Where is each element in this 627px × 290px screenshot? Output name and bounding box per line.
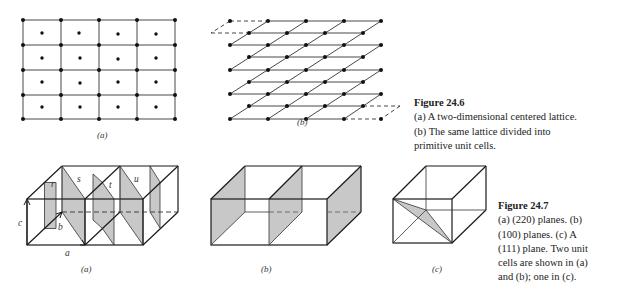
- figure-24-6-caption: Figure 24.6 (a) A two-dimensional center…: [414, 96, 624, 153]
- fig-24-7c-label: (c): [432, 264, 442, 274]
- plane-label-u: u: [134, 174, 139, 184]
- fig-24-7c-shaded-plane: [393, 199, 452, 243]
- axis-label-a: a: [65, 248, 70, 258]
- caption-line: (b) The same lattice divided into: [414, 125, 624, 139]
- axis-label-b: b: [58, 222, 63, 232]
- figure-24-6-title: Figure 24.6: [414, 96, 624, 110]
- caption-line: (a) A two-dimensional centered lattice.: [414, 110, 624, 124]
- plane-label-r: r: [51, 179, 55, 189]
- caption-line: (100) planes. (c) A: [498, 228, 626, 242]
- fig-24-7b-label: (b): [261, 264, 272, 274]
- figure-24-7-caption: Figure 24.7 (a) (220) planes. (b) (100) …: [498, 199, 626, 285]
- caption-line: (a) (220) planes. (b): [498, 213, 626, 227]
- caption-line: (111) plane. Two unit: [498, 242, 626, 256]
- plane-label-s: s: [77, 174, 81, 184]
- fig-24-6a-label: (a): [97, 130, 108, 140]
- plane-label-t: t: [109, 180, 112, 190]
- caption-line: cells are shown in (a): [498, 256, 626, 270]
- figure-24-7-title: Figure 24.7: [498, 199, 626, 213]
- caption-line: and (b); one in (c).: [498, 270, 626, 284]
- caption-line: primitive unit cells.: [414, 139, 624, 153]
- fig-24-6b-label: (b): [297, 117, 308, 127]
- axis-label-c: c: [18, 218, 22, 228]
- fig-24-7a-label: (a): [81, 264, 92, 274]
